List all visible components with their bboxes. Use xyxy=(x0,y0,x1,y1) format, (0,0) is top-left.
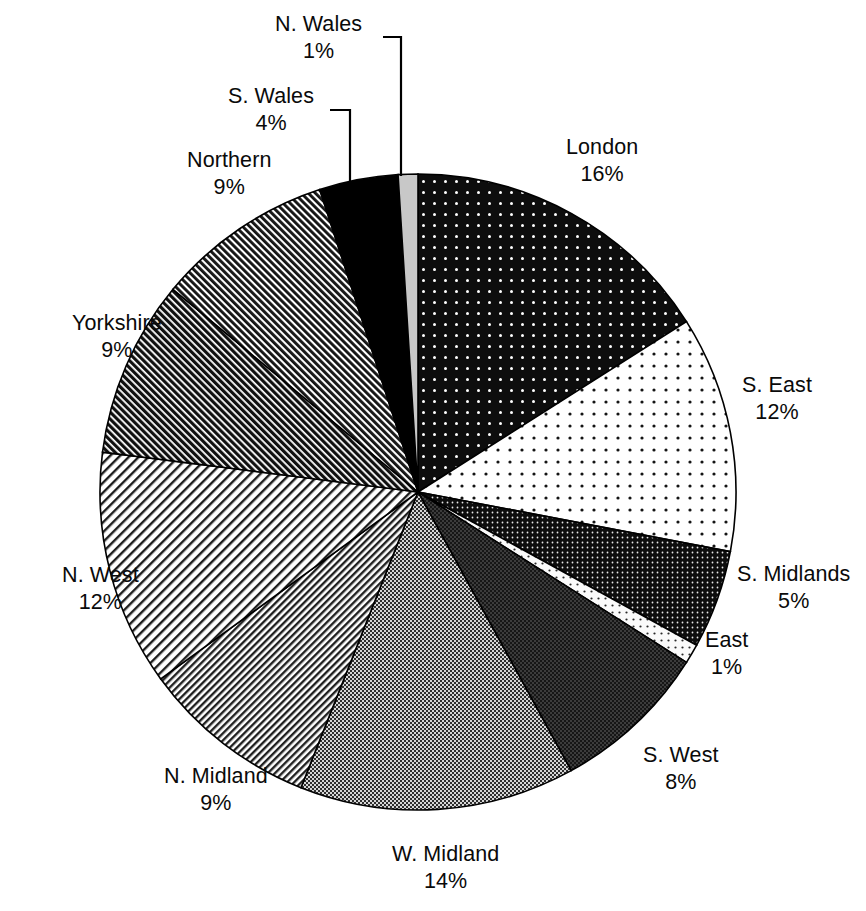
pie-label-value-east: 1% xyxy=(705,654,748,681)
pie-label-east: East1% xyxy=(705,627,748,681)
pie-label-n-midland: N. Midland9% xyxy=(164,763,268,817)
leader-line-n-wales xyxy=(383,37,401,176)
pie-label-value-yorkshire: 9% xyxy=(72,337,162,364)
pie-label-value-london: 16% xyxy=(566,161,638,188)
pie-label-name-n-wales: N. Wales xyxy=(275,11,362,38)
pie-label-s-wales: S. Wales4% xyxy=(228,83,314,137)
pie-label-value-w-midland: 14% xyxy=(392,868,499,895)
pie-label-london: London16% xyxy=(566,134,638,188)
pie-label-name-s-wales: S. Wales xyxy=(228,83,314,110)
pie-label-northern: Northern9% xyxy=(187,147,271,201)
pie-slices-group xyxy=(100,174,736,810)
pie-label-value-s-wales: 4% xyxy=(228,110,314,137)
pie-label-name-n-west: N. West xyxy=(62,562,139,589)
pie-label-value-s-west: 8% xyxy=(643,769,719,796)
pie-label-name-s-midlands: S. Midlands xyxy=(737,561,850,588)
pie-label-s-west: S. West8% xyxy=(643,742,719,796)
pie-label-name-london: London xyxy=(566,134,638,161)
pie-label-value-n-midland: 9% xyxy=(164,790,268,817)
pie-label-name-yorkshire: Yorkshire xyxy=(72,310,162,337)
leader-line-s-wales xyxy=(330,110,350,184)
pie-label-value-northern: 9% xyxy=(187,174,271,201)
pie-label-name-northern: Northern xyxy=(187,147,271,174)
pie-label-value-s-east: 12% xyxy=(742,399,812,426)
pie-chart-canvas xyxy=(0,0,866,911)
pie-label-name-w-midland: W. Midland xyxy=(392,841,499,868)
pie-label-value-n-wales: 1% xyxy=(275,38,362,65)
pie-label-value-n-west: 12% xyxy=(62,589,139,616)
pie-label-yorkshire: Yorkshire9% xyxy=(72,310,162,364)
pie-label-s-east: S. East12% xyxy=(742,372,812,426)
pie-label-name-n-midland: N. Midland xyxy=(164,763,268,790)
pie-label-n-west: N. West12% xyxy=(62,562,139,616)
pie-label-s-midlands: S. Midlands5% xyxy=(737,561,850,615)
pie-chart-figure: London16%S. East12%S. Midlands5%East1%S.… xyxy=(0,0,866,911)
pie-label-w-midland: W. Midland14% xyxy=(392,841,499,895)
pie-label-n-wales: N. Wales1% xyxy=(275,11,362,65)
pie-label-value-s-midlands: 5% xyxy=(737,588,850,615)
pie-label-name-s-east: S. East xyxy=(742,372,812,399)
pie-label-name-east: East xyxy=(705,627,748,654)
pie-label-name-s-west: S. West xyxy=(643,742,719,769)
